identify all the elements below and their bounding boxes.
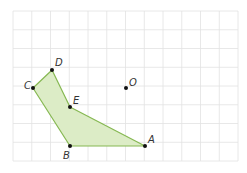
point-d-dot	[50, 68, 54, 72]
point-a-dot	[143, 144, 147, 148]
point-c-label: C	[24, 80, 31, 91]
point-o-label: O	[129, 77, 137, 88]
point-a-label: A	[147, 134, 155, 145]
grid-diagram: ABCDEO	[0, 0, 247, 173]
point-b-dot	[68, 144, 72, 148]
point-e-label: E	[73, 95, 80, 106]
point-c-dot	[31, 86, 35, 90]
point-d-label: D	[55, 57, 63, 68]
point-o-dot	[124, 86, 128, 90]
point-e-dot	[68, 105, 72, 109]
point-b-label: B	[63, 150, 70, 161]
